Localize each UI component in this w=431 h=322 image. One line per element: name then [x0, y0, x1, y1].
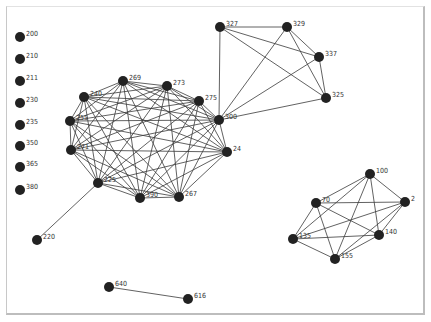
- edge-329-300: [219, 27, 287, 120]
- node-235[interactable]: 235: [15, 118, 38, 130]
- node-circle[interactable]: [400, 197, 410, 207]
- node-circle[interactable]: [174, 192, 184, 202]
- node-label: 230: [26, 96, 38, 104]
- node-label: 255: [76, 114, 88, 122]
- edge-267-255: [70, 121, 179, 197]
- edge-100-140: [370, 174, 379, 235]
- edge-275-267: [179, 101, 199, 197]
- node-210[interactable]: 210: [15, 52, 38, 64]
- node-circle[interactable]: [222, 147, 232, 157]
- node-circle[interactable]: [79, 92, 89, 102]
- node-275[interactable]: 275: [194, 94, 217, 106]
- node-269[interactable]: 269: [118, 74, 141, 86]
- node-circle[interactable]: [314, 52, 324, 62]
- node-circle[interactable]: [135, 193, 145, 203]
- node-label: 390: [146, 191, 158, 199]
- node-label: 70: [322, 196, 330, 204]
- edge-300-255: [70, 120, 219, 121]
- node-337[interactable]: 337: [314, 50, 337, 62]
- node-label: 380: [26, 183, 38, 191]
- edge-100-155: [335, 174, 370, 259]
- node-circle[interactable]: [365, 169, 375, 179]
- node-300[interactable]: 300: [214, 113, 237, 125]
- node-label: 135: [299, 232, 311, 240]
- node-327[interactable]: 327: [215, 20, 238, 32]
- node-label: 271: [77, 143, 89, 151]
- node-390[interactable]: 390: [135, 191, 158, 203]
- node-circle[interactable]: [15, 54, 25, 64]
- node-label: 275: [205, 94, 217, 102]
- node-label: 300: [225, 113, 237, 121]
- node-label: 267: [185, 190, 197, 198]
- node-200[interactable]: 200: [15, 30, 38, 42]
- node-circle[interactable]: [32, 235, 42, 245]
- node-100[interactable]: 100: [365, 167, 388, 179]
- node-label: 200: [26, 30, 38, 38]
- node-230[interactable]: 230: [15, 96, 38, 108]
- node-circle[interactable]: [215, 22, 225, 32]
- edge-337-300: [219, 57, 319, 120]
- edge-135-155: [293, 239, 335, 259]
- node-label: 365: [26, 160, 38, 168]
- node-circle[interactable]: [15, 141, 25, 151]
- edge-300-390: [140, 120, 219, 198]
- node-label: 210: [26, 52, 38, 60]
- node-label: 337: [325, 50, 337, 58]
- node-circle[interactable]: [93, 178, 103, 188]
- node-label: 325: [332, 91, 344, 99]
- node-640[interactable]: 640: [104, 280, 127, 292]
- node-267[interactable]: 267: [174, 190, 197, 202]
- node-circle[interactable]: [194, 96, 204, 106]
- node-circle[interactable]: [15, 162, 25, 172]
- node-616[interactable]: 616: [183, 292, 206, 304]
- node-220[interactable]: 220: [32, 233, 55, 245]
- node-240[interactable]: 240: [79, 90, 102, 102]
- node-label: 269: [129, 74, 141, 82]
- node-325[interactable]: 325: [321, 91, 344, 103]
- node-circle[interactable]: [214, 115, 224, 125]
- node-label: 24: [233, 145, 241, 153]
- node-circle[interactable]: [15, 32, 25, 42]
- network-graph: 2002102112302353503653802402692732753002…: [0, 0, 431, 322]
- node-circle[interactable]: [183, 294, 193, 304]
- node-70[interactable]: 70: [311, 196, 330, 208]
- edge-327-300: [219, 27, 220, 120]
- node-225[interactable]: 225: [93, 176, 116, 188]
- node-circle[interactable]: [118, 76, 128, 86]
- node-label: 640: [115, 280, 127, 288]
- edge-240-24: [84, 97, 227, 152]
- node-circle[interactable]: [66, 145, 76, 155]
- node-label: 616: [194, 292, 206, 300]
- node-circle[interactable]: [15, 98, 25, 108]
- node-circle[interactable]: [374, 230, 384, 240]
- node-label: 155: [341, 252, 353, 260]
- node-24[interactable]: 24: [222, 145, 241, 157]
- node-circle[interactable]: [15, 76, 25, 86]
- node-140[interactable]: 140: [374, 228, 397, 240]
- node-circle[interactable]: [282, 22, 292, 32]
- node-label: 220: [43, 233, 55, 241]
- node-label: 211: [26, 74, 38, 82]
- node-circle[interactable]: [15, 120, 25, 130]
- node-label: 327: [226, 20, 238, 28]
- node-label: 350: [26, 139, 38, 147]
- node-329[interactable]: 329: [282, 20, 305, 32]
- node-circle[interactable]: [65, 116, 75, 126]
- node-circle[interactable]: [321, 93, 331, 103]
- node-380[interactable]: 380: [15, 183, 38, 195]
- nodes-layer: 2002102112302353503653802402692732753002…: [15, 20, 415, 304]
- edge-640-616: [109, 287, 188, 299]
- node-label: 273: [173, 79, 185, 87]
- node-350[interactable]: 350: [15, 139, 38, 151]
- node-211[interactable]: 211: [15, 74, 38, 86]
- node-circle[interactable]: [330, 254, 340, 264]
- edge-100-135: [293, 174, 370, 239]
- node-circle[interactable]: [162, 81, 172, 91]
- edge-275-24: [199, 101, 227, 152]
- node-circle[interactable]: [311, 198, 321, 208]
- node-2[interactable]: 2: [400, 195, 415, 207]
- node-circle[interactable]: [104, 282, 114, 292]
- node-circle[interactable]: [15, 185, 25, 195]
- node-365[interactable]: 365: [15, 160, 38, 172]
- node-circle[interactable]: [288, 234, 298, 244]
